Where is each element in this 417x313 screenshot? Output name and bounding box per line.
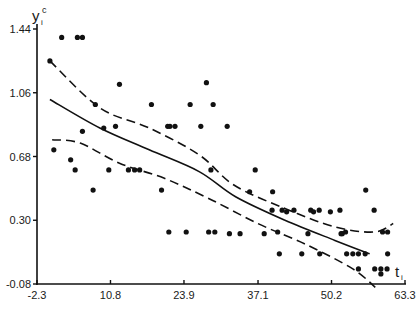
data-point	[47, 58, 52, 63]
data-point	[93, 102, 98, 107]
data-point	[117, 82, 122, 87]
data-point	[350, 251, 355, 256]
data-point	[167, 124, 172, 129]
data-point	[225, 124, 230, 129]
data-points	[47, 35, 390, 277]
data-point	[378, 266, 383, 271]
x-label-sub: i	[401, 273, 403, 282]
data-point	[291, 208, 296, 213]
data-point	[204, 80, 209, 85]
data-point	[188, 102, 193, 107]
data-point	[90, 187, 95, 192]
x-tick-label: 10.8	[100, 289, 121, 301]
y-tick-label: 0.68	[10, 151, 31, 163]
data-point	[80, 129, 85, 134]
x-tick-label: 23.9	[173, 289, 194, 301]
x-tick-label: 37.1	[247, 289, 268, 301]
data-point	[380, 229, 385, 234]
data-point	[73, 167, 78, 172]
data-point	[337, 208, 342, 213]
data-point	[126, 167, 131, 172]
data-point	[159, 187, 164, 192]
data-point	[317, 251, 322, 256]
data-point	[51, 147, 56, 152]
data-point	[184, 229, 189, 234]
scatter-chart: 1.441.060.680.30-0.08 -2.310.823.937.150…	[0, 0, 417, 313]
data-point	[270, 189, 275, 194]
data-point	[305, 231, 310, 236]
data-point	[344, 251, 349, 256]
data-point	[338, 231, 343, 236]
data-point	[372, 266, 377, 271]
confidence-band-line	[52, 140, 375, 288]
y-ticks: 1.441.060.680.30-0.08	[6, 23, 37, 290]
data-point	[106, 167, 111, 172]
data-point	[363, 251, 368, 256]
data-point	[378, 271, 383, 276]
data-point	[284, 209, 289, 214]
data-point	[101, 125, 106, 130]
y-label-main: y	[32, 7, 40, 24]
x-tick-label: 63.3	[394, 289, 415, 301]
data-point	[198, 124, 203, 129]
data-point	[356, 251, 361, 256]
data-point	[211, 102, 216, 107]
data-point	[172, 124, 177, 129]
data-point	[385, 229, 390, 234]
data-point	[227, 231, 232, 236]
data-point	[363, 187, 368, 192]
data-point	[166, 229, 171, 234]
data-point	[384, 266, 389, 271]
y-axis-label: y c i	[32, 5, 47, 27]
x-axis-label: t i	[395, 263, 403, 282]
y-tick-label: 0.30	[10, 214, 31, 226]
data-point	[372, 208, 377, 213]
data-point	[280, 208, 285, 213]
data-point	[328, 209, 333, 214]
data-point	[262, 231, 267, 236]
data-point	[299, 251, 304, 256]
data-point	[59, 35, 64, 40]
y-tick-label: 1.06	[10, 87, 31, 99]
y-label-sub: i	[41, 18, 43, 27]
data-point	[137, 167, 142, 172]
x-label-main: t	[395, 263, 400, 280]
data-point	[212, 229, 217, 234]
data-point	[356, 266, 361, 271]
confidence-band-line	[50, 61, 393, 232]
x-tick-label: 50.2	[321, 289, 342, 301]
data-point	[208, 167, 213, 172]
data-point	[68, 157, 73, 162]
data-point	[275, 229, 280, 234]
data-point	[253, 167, 258, 172]
x-ticks: -2.310.823.937.150.263.3	[28, 280, 416, 301]
data-point	[80, 35, 85, 40]
data-point	[75, 35, 80, 40]
data-point	[206, 229, 211, 234]
data-point	[237, 231, 242, 236]
data-point	[132, 167, 137, 172]
y-label-sup: c	[42, 5, 47, 15]
data-point	[149, 102, 154, 107]
data-point	[385, 251, 390, 256]
x-tick-label: -2.3	[28, 289, 47, 301]
data-point	[277, 251, 282, 256]
data-point	[247, 189, 252, 194]
curves	[50, 61, 393, 287]
data-point	[343, 229, 348, 234]
y-tick-label: 1.44	[10, 23, 31, 35]
data-point	[317, 208, 322, 213]
data-point	[113, 124, 118, 129]
data-point	[269, 208, 274, 213]
data-point	[311, 209, 316, 214]
